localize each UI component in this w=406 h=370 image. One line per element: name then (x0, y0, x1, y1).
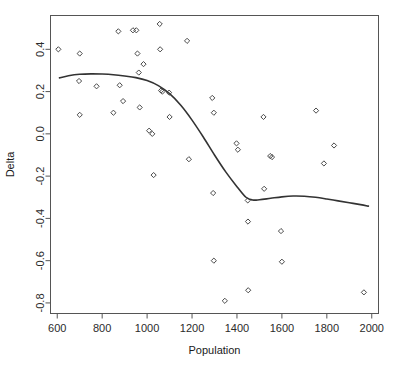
y-tick-label: -0.2 (34, 167, 46, 186)
data-point (76, 78, 81, 83)
data-point (77, 112, 82, 117)
y-tick-label: -0.8 (34, 293, 46, 312)
x-tick-label: 1000 (135, 322, 159, 334)
chart-canvas: 600800100012001400160018002000 0.40.20.0… (0, 0, 406, 370)
plot-frame-group (51, 16, 379, 314)
data-point (211, 258, 216, 263)
x-axis-title: Population (189, 344, 241, 356)
y-tick-label: 0.4 (34, 42, 46, 57)
y-tick-label: 0.2 (34, 84, 46, 99)
data-point (136, 70, 141, 75)
data-point (56, 47, 61, 52)
data-points-group (56, 21, 367, 303)
data-point (111, 110, 116, 115)
data-point (279, 259, 284, 264)
x-axis-ticks-group: 600800100012001400160018002000 (48, 314, 384, 334)
data-point (137, 105, 142, 110)
data-point (261, 114, 266, 119)
data-point (116, 29, 121, 34)
x-tick-label: 2000 (360, 322, 384, 334)
data-point (246, 288, 251, 293)
x-tick-label: 1600 (270, 322, 294, 334)
data-point (278, 228, 283, 233)
data-point (184, 38, 189, 43)
data-point (186, 157, 191, 162)
smoothing-curve-group (59, 74, 368, 206)
data-point (211, 110, 216, 115)
data-point (222, 298, 227, 303)
scatter-plot-figure: 600800100012001400160018002000 0.40.20.0… (0, 0, 406, 370)
data-point (313, 108, 318, 113)
x-tick-label: 1400 (225, 322, 249, 334)
data-point (94, 84, 99, 89)
x-tick-label: 600 (48, 322, 66, 334)
data-point (245, 219, 250, 224)
data-point (234, 141, 239, 146)
data-point (134, 28, 139, 33)
y-axis-title: Delta (4, 151, 16, 178)
x-tick-label: 1800 (315, 322, 339, 334)
data-point (141, 62, 146, 67)
x-tick-label: 1200 (180, 322, 204, 334)
loess-smoothing-curve (59, 74, 368, 206)
data-point (157, 21, 162, 26)
data-point (151, 172, 156, 177)
data-point (321, 161, 326, 166)
data-point (77, 51, 82, 56)
y-axis-ticks-group: 0.40.20.0-0.2-0.4-0.6-0.8 (34, 42, 50, 313)
y-tick-label: -0.4 (34, 209, 46, 228)
data-point (167, 114, 172, 119)
data-point (235, 147, 240, 152)
data-point (361, 290, 366, 295)
data-point (120, 98, 125, 103)
data-point (331, 143, 336, 148)
plot-box (51, 16, 379, 314)
data-point (135, 51, 140, 56)
data-point (210, 95, 215, 100)
y-tick-label: 0.0 (34, 126, 46, 141)
data-point (130, 28, 135, 33)
data-point (158, 47, 163, 52)
data-point (211, 190, 216, 195)
y-tick-label: -0.6 (34, 251, 46, 270)
data-point (262, 186, 267, 191)
data-point (117, 83, 122, 88)
x-tick-label: 800 (93, 322, 111, 334)
